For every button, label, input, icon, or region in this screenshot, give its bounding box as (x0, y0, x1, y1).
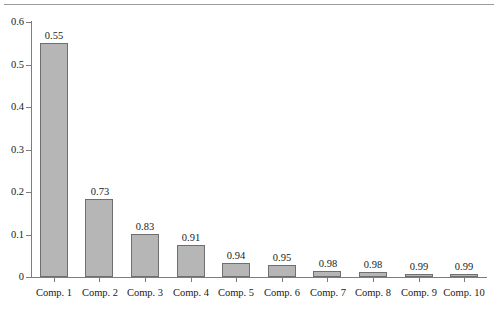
bar-value-label: 0.95 (259, 252, 305, 263)
bar (222, 263, 250, 277)
x-axis-tick-label: Comp. 1 (31, 287, 77, 299)
y-axis-tick (26, 65, 32, 66)
bar-value-label: 0.91 (168, 232, 214, 243)
x-axis-tick (145, 277, 146, 282)
x-axis-tick (99, 277, 100, 282)
bar-value-label: 0.73 (77, 186, 123, 197)
x-axis-tick (464, 277, 465, 282)
x-axis-tick (419, 277, 420, 282)
x-axis-tick-label: Comp. 9 (396, 287, 442, 299)
scree-bar-chart: 00.10.20.30.40.50.6 0.550.730.830.910.94… (0, 0, 498, 314)
x-axis-tick-label: Comp. 7 (305, 287, 351, 299)
x-axis-tick-label: Comp. 8 (350, 287, 396, 299)
y-axis-tick (26, 235, 32, 236)
y-axis-tick-label: 0.5 (0, 60, 24, 71)
y-axis-tick-label: 0.2 (0, 187, 24, 198)
x-axis-tick-label: Comp. 2 (77, 287, 123, 299)
bar (85, 199, 113, 277)
x-axis-tick (236, 277, 237, 282)
y-axis-tick-label: 0.6 (0, 17, 24, 28)
bar-value-label: 0.98 (350, 259, 396, 270)
bar (131, 234, 159, 277)
y-axis-tick (26, 22, 32, 23)
x-axis-tick-label: Comp. 5 (213, 287, 259, 299)
x-axis-tick (327, 277, 328, 282)
x-axis-tick-label: Comp. 10 (441, 287, 487, 299)
x-axis-tick (282, 277, 283, 282)
y-axis-tick-label: 0 (0, 272, 24, 283)
bar (177, 245, 205, 277)
y-axis-tick-label: 0.4 (0, 102, 24, 113)
bar-value-label: 0.55 (31, 30, 77, 41)
y-axis-tick (26, 107, 32, 108)
y-axis-tick-label: 0.3 (0, 145, 24, 156)
bar-value-label: 0.99 (396, 261, 442, 272)
bar (40, 43, 68, 277)
x-axis-tick-label: Comp. 4 (168, 287, 214, 299)
x-axis-tick (54, 277, 55, 282)
y-axis-tick (26, 192, 32, 193)
bar (268, 265, 296, 277)
x-axis-tick (373, 277, 374, 282)
bar-value-label: 0.94 (213, 250, 259, 261)
bar-value-label: 0.98 (305, 258, 351, 269)
x-axis-tick-label: Comp. 3 (122, 287, 168, 299)
x-axis-tick-label: Comp. 6 (259, 287, 305, 299)
y-axis-tick-label: 0.1 (0, 230, 24, 241)
bar-value-label: 0.83 (122, 221, 168, 232)
x-axis-tick (191, 277, 192, 282)
y-axis-tick (26, 277, 32, 278)
y-axis-tick (26, 150, 32, 151)
bar-value-label: 0.99 (441, 261, 487, 272)
